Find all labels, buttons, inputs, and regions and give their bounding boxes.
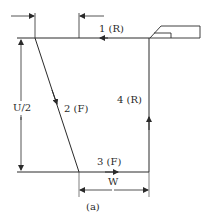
figure-caption: (a) xyxy=(86,201,100,212)
top-offset-dimension xyxy=(11,13,104,38)
segment-3-label: 3 (F) xyxy=(97,156,121,167)
segment-2-label: 2 (F) xyxy=(64,103,88,114)
segment-4-label: 4 (R) xyxy=(117,94,142,105)
u-half-label: U/2 xyxy=(13,102,31,113)
cutting-path-diagram: 1 (R) 2 (F) 3 (F) 4 (R) U/2 W (a) xyxy=(0,0,208,220)
cutting-tool-icon xyxy=(150,26,200,38)
segment-1-label: 1 (R) xyxy=(99,23,124,34)
w-label: W xyxy=(108,176,119,187)
